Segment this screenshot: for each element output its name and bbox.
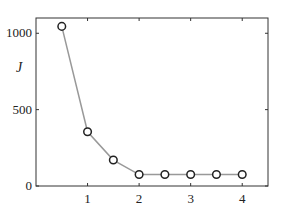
x-tick-label: 3 bbox=[187, 191, 194, 206]
data-point-marker bbox=[110, 156, 118, 164]
y-tick-label: 1000 bbox=[6, 25, 32, 40]
data-point-marker bbox=[238, 171, 246, 179]
data-point-marker bbox=[161, 171, 169, 179]
y-axis: 05001000 bbox=[6, 25, 268, 193]
line-chart: 1234 05001000 J bbox=[0, 0, 281, 213]
series-line bbox=[62, 26, 242, 174]
data-point-marker bbox=[135, 171, 143, 179]
y-axis-label: J bbox=[16, 60, 23, 75]
data-point-marker bbox=[58, 23, 66, 31]
data-point-marker bbox=[213, 171, 221, 179]
data-series bbox=[58, 23, 246, 179]
axes-frame bbox=[36, 18, 268, 186]
x-tick-label: 1 bbox=[84, 191, 91, 206]
x-tick-label: 2 bbox=[136, 191, 143, 206]
y-tick-label: 500 bbox=[13, 102, 33, 117]
data-point-marker bbox=[84, 128, 92, 136]
x-tick-label: 4 bbox=[239, 191, 246, 206]
y-tick-label: 0 bbox=[26, 178, 33, 193]
plot-area bbox=[36, 18, 268, 186]
data-point-marker bbox=[187, 171, 195, 179]
